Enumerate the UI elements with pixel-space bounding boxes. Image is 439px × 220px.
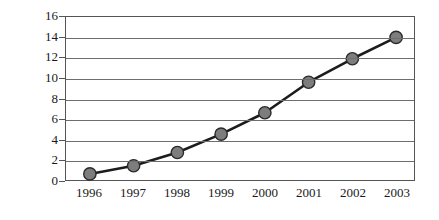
y-axis-tick-label: 6: [2, 112, 58, 125]
x-axis-tick-label: 2001: [296, 186, 322, 199]
x-axis-tick-label: 1998: [164, 186, 190, 199]
data-point-marker: [171, 146, 183, 158]
data-point-marker: [259, 107, 271, 119]
y-axis-tick-label: 8: [2, 92, 58, 105]
y-axis-tick-label: 10: [2, 71, 58, 84]
gridline: [66, 141, 414, 142]
y-axis-tick-label: 0: [2, 174, 58, 187]
x-axis-tick-label: 1997: [120, 186, 146, 199]
gridline: [66, 58, 414, 59]
x-axis-tick-label: 2002: [340, 186, 366, 199]
gridline: [66, 161, 414, 162]
gridline: [66, 79, 414, 80]
data-point-marker: [84, 168, 96, 180]
y-axis-tick-label: 2: [2, 153, 58, 166]
y-axis-tick-mark: [59, 181, 65, 182]
gridline: [66, 38, 414, 39]
line-chart-figure: Millions of users 0246810121416 19961997…: [0, 0, 439, 220]
y-axis-tick-labels: 0246810121416: [0, 16, 62, 181]
series-markers: [84, 31, 403, 180]
x-axis-tick-label: 2003: [384, 186, 410, 199]
y-axis-tick-label: 12: [2, 50, 58, 63]
y-axis-tick-label: 16: [2, 9, 58, 22]
gridline: [66, 100, 414, 101]
plot-area: [65, 16, 415, 181]
x-axis-tick-label: 1996: [76, 186, 102, 199]
x-axis-tick-label: 2000: [252, 186, 278, 199]
x-axis-tick-label: 1999: [208, 186, 234, 199]
data-point-marker: [215, 128, 227, 140]
y-axis-tick-label: 4: [2, 133, 58, 146]
gridline: [66, 120, 414, 121]
data-series-layer: [66, 17, 414, 180]
x-axis-tick-labels: 19961997199819992000200120022003: [65, 186, 415, 208]
y-axis-tick-label: 14: [2, 30, 58, 43]
